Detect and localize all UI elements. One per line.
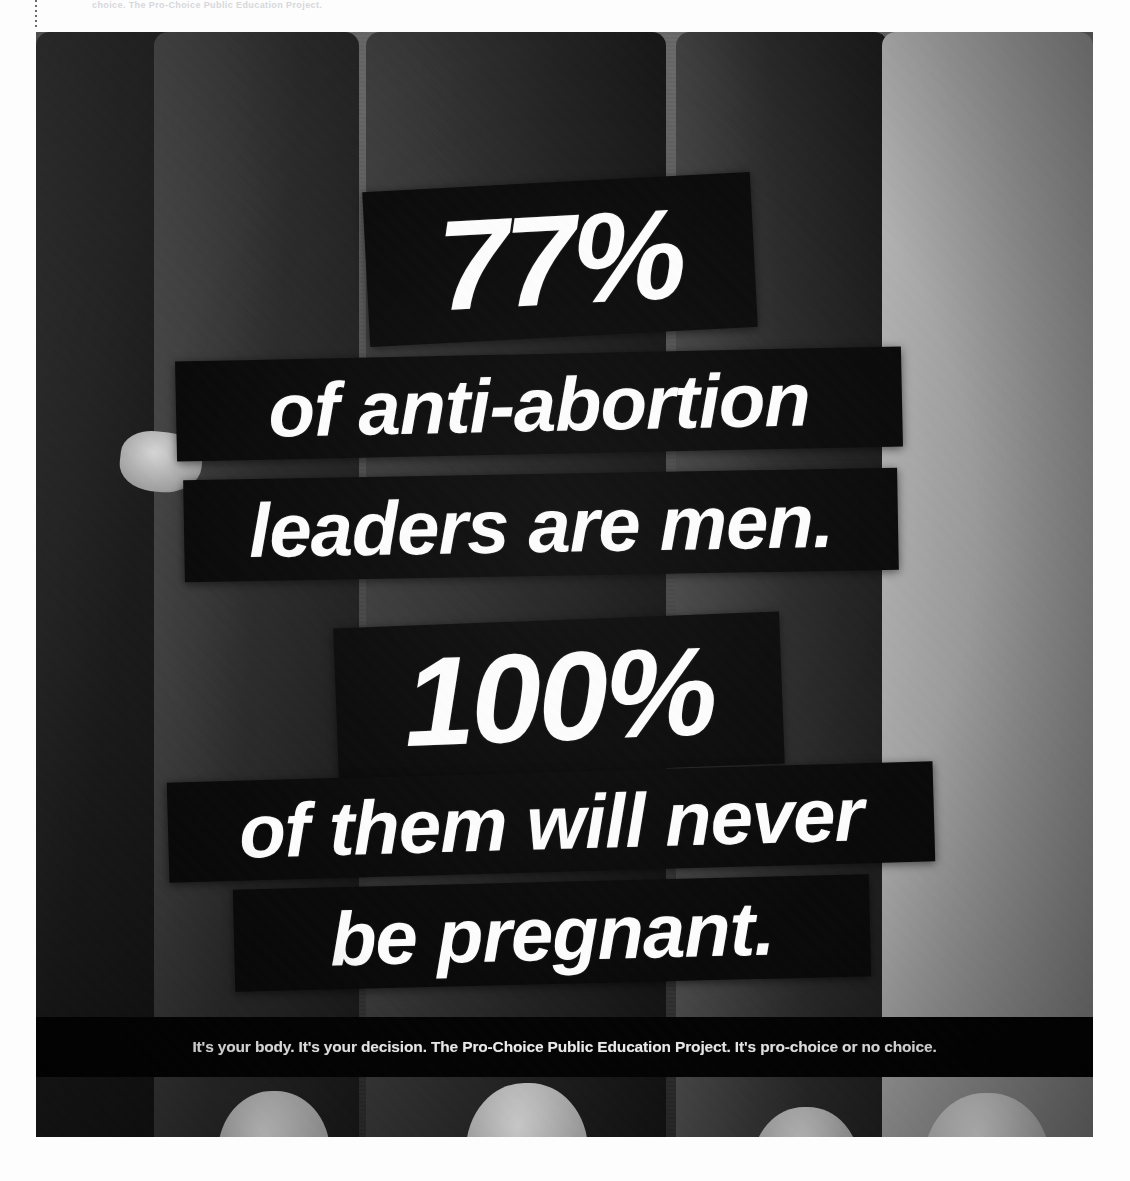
suit-body-far-right <box>882 32 1093 1137</box>
scan-header-text: choice. The Pro-Choice Public Education … <box>92 0 652 11</box>
scanned-page: choice. The Pro-Choice Public Education … <box>0 0 1130 1181</box>
caption-bar: It's your body. It's your decision. The … <box>36 1017 1093 1077</box>
caption-text: It's your body. It's your decision. The … <box>192 1038 936 1056</box>
headline-banner-stat-100: 100% <box>333 611 785 780</box>
headline-banner-of-them-will-never: of them will never <box>167 761 935 882</box>
poster-photograph: 77% of anti-abortion leaders are men. 10… <box>36 32 1093 1137</box>
headline-banner-of-anti-abortion: of anti-abortion <box>175 346 903 461</box>
headline-banner-leaders-are-men: leaders are men. <box>183 468 899 582</box>
headline-banner-stat-77: 77% <box>362 172 758 347</box>
crop-mark-dotted-line <box>35 0 37 30</box>
headline-banner-be-pregnant: be pregnant. <box>233 874 871 992</box>
